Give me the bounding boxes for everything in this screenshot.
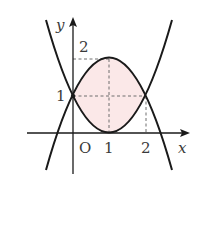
y-axis-label: y	[55, 16, 65, 34]
origin-label: O	[79, 139, 91, 157]
y-tick-1: 1	[56, 87, 66, 105]
intersection-point-left	[71, 94, 75, 98]
parabola-region-diagram: y x O 1 2 1 2	[0, 0, 200, 227]
x-tick-1: 1	[104, 139, 114, 157]
x-tick-2: 2	[141, 139, 151, 157]
x-axis-label: x	[178, 139, 187, 157]
y-tick-2: 2	[79, 38, 89, 56]
